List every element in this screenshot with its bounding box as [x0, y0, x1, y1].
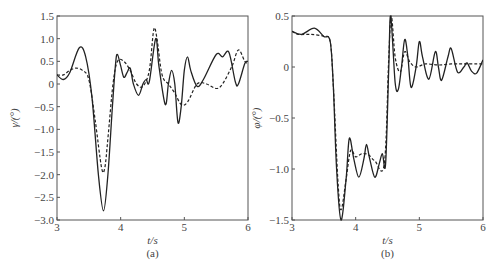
y-axis-label: φ/(°) — [250, 107, 263, 128]
y-tick-label: −2.0 — [34, 169, 54, 181]
y-tick-label: 1.0 — [40, 33, 54, 45]
x-axis-label: t/s — [147, 234, 157, 246]
x-tick-label: 4 — [118, 221, 124, 233]
x-tick-label: 3 — [289, 221, 295, 233]
dashed-series-line — [57, 28, 248, 173]
panel-caption: (b) — [381, 247, 394, 260]
x-axis-label: t/s — [382, 234, 392, 246]
y-tick-label: 0.5 — [275, 10, 289, 22]
y-tick-label: −3.0 — [34, 214, 54, 226]
panel-caption: (a) — [146, 247, 159, 260]
x-tick-label: 5 — [182, 221, 188, 233]
x-tick-label: 6 — [480, 221, 486, 233]
x-tick-label: 3 — [54, 221, 60, 233]
y-tick-label: −0.5 — [269, 112, 289, 124]
solid-series-line — [57, 38, 248, 210]
x-tick-label: 6 — [245, 221, 251, 233]
y-axis-label: γ/(°) — [8, 108, 21, 127]
y-tick-label: 0.5 — [40, 55, 54, 67]
x-tick-label: 5 — [417, 221, 423, 233]
y-tick-label: −0.5 — [34, 101, 54, 113]
panel-b-chart: 0.50−0.5−1.0−1.53456t/sφ/(°)(b) — [250, 10, 486, 260]
y-tick-label: 1.5 — [40, 10, 54, 22]
x-tick-label: 4 — [353, 221, 359, 233]
panel-a-chart: 1.51.00.50−0.5−1.0−1.5−2.0−2.5−3.03456t/… — [8, 10, 251, 260]
y-tick-label: −2.5 — [34, 191, 54, 203]
plot-frame — [57, 16, 248, 220]
figure: 1.51.00.50−0.5−1.0−1.5−2.0−2.5−3.03456t/… — [0, 0, 491, 262]
y-tick-label: 0 — [284, 61, 290, 73]
dashed-series-line — [292, 16, 483, 210]
y-tick-label: 0 — [49, 78, 55, 90]
y-tick-label: −1.0 — [34, 123, 54, 135]
y-tick-label: −1.5 — [269, 214, 289, 226]
y-tick-label: −1.5 — [34, 146, 54, 158]
y-tick-label: −1.0 — [269, 163, 289, 175]
solid-series-line — [292, 16, 483, 220]
